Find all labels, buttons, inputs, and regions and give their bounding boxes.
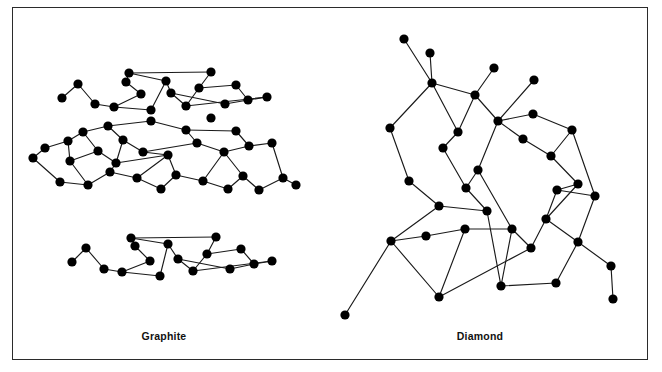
bond (432, 83, 475, 95)
atom-node (340, 310, 349, 319)
atom-node (231, 80, 240, 89)
atom-node (173, 254, 182, 263)
graphite-structure (28, 67, 300, 280)
atom-node (111, 158, 120, 167)
figure-caption (14, 364, 414, 372)
bond (137, 155, 168, 178)
atom-node (243, 95, 252, 104)
atom-node (188, 266, 197, 275)
atom-node (90, 99, 99, 108)
bond (439, 206, 487, 211)
atom-node (161, 76, 170, 85)
atom-node (206, 67, 215, 76)
bond (426, 229, 465, 236)
bond (458, 95, 475, 132)
atom-node (496, 281, 505, 290)
bond (207, 249, 241, 254)
bond (160, 244, 168, 276)
bond (466, 188, 487, 211)
bond (108, 121, 151, 126)
atom-node (220, 99, 229, 108)
atom-node (40, 143, 49, 152)
bond (557, 190, 595, 196)
bond (501, 229, 512, 286)
atom-node (103, 121, 112, 130)
bond (478, 170, 512, 229)
atom-node (181, 101, 190, 110)
bond (439, 248, 531, 297)
atom-node (453, 127, 462, 136)
diamond-bonds (345, 39, 613, 315)
bond (546, 184, 578, 219)
atom-node (438, 143, 447, 152)
atom-node (434, 292, 443, 301)
diamond-structure (340, 34, 617, 319)
atom-node (171, 170, 180, 179)
atom-node (78, 127, 87, 136)
atom-node (460, 224, 469, 233)
atom-node (109, 102, 118, 111)
atom-node (55, 177, 64, 186)
bond (272, 143, 283, 178)
bond (487, 211, 501, 286)
bond (129, 72, 211, 73)
bond (475, 95, 498, 121)
bond (131, 237, 216, 238)
bond (391, 206, 439, 241)
atom-node (192, 138, 201, 147)
atom-node (528, 109, 537, 118)
atom-node (427, 78, 436, 87)
diamond-label: Diamond (420, 330, 540, 342)
bond (186, 130, 236, 131)
diamond-atoms (340, 34, 617, 319)
graphite-label: Graphite (104, 330, 224, 342)
bond (478, 121, 498, 170)
atom-node (65, 156, 74, 165)
atom-node (606, 261, 615, 270)
atom-node (163, 239, 172, 248)
atom-node (121, 77, 130, 86)
bond (551, 130, 572, 156)
atom-node (166, 88, 175, 97)
atom-node (225, 264, 234, 273)
atom-node (57, 93, 66, 102)
bond (611, 266, 613, 299)
atom-node (262, 92, 271, 101)
atom-node (399, 34, 408, 43)
atom-node (83, 180, 92, 189)
bond (404, 39, 432, 83)
atom-node (211, 232, 220, 241)
atom-node (194, 83, 203, 92)
bond (531, 219, 546, 248)
atom-node (117, 267, 126, 276)
bond (498, 121, 523, 139)
atom-node (236, 244, 245, 253)
atom-node (385, 123, 394, 132)
bond (578, 196, 595, 242)
atom-node (145, 256, 154, 265)
atom-node (291, 180, 300, 189)
bond (551, 156, 578, 184)
atom-node (551, 278, 560, 287)
atom-node (155, 271, 164, 280)
bond (129, 73, 166, 81)
atom-node (518, 134, 527, 143)
atom-node (608, 294, 617, 303)
atom-node (386, 236, 395, 245)
atom-node (529, 75, 538, 84)
atom-node (526, 243, 535, 252)
atom-node (146, 116, 155, 125)
atom-node (126, 233, 135, 242)
figure-page: Graphite Diamond (0, 0, 662, 372)
bond (546, 190, 557, 219)
atom-node (219, 147, 228, 156)
atom-node (138, 147, 147, 156)
atom-node (73, 79, 82, 88)
bond (432, 83, 458, 132)
atom-node (81, 243, 90, 252)
atom-node (567, 125, 576, 134)
atom-node (552, 185, 561, 194)
bond (143, 143, 197, 152)
bond (122, 272, 160, 276)
crystal-structure-diagram (0, 0, 662, 372)
